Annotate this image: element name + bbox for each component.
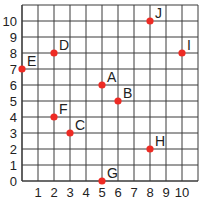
data-point-b: B — [114, 85, 132, 105]
x-tick-label: 9 — [162, 185, 169, 200]
y-tick-label: 3 — [10, 126, 17, 141]
x-tick-label: 8 — [146, 185, 153, 200]
point-label: F — [59, 101, 68, 117]
point-marker — [146, 17, 153, 24]
y-tick-label: 0 — [10, 174, 17, 189]
data-point-a: A — [98, 69, 117, 89]
data-point-e: E — [18, 53, 36, 73]
y-tick-label: 5 — [10, 94, 17, 109]
data-point-c: C — [66, 117, 85, 137]
point-label: J — [155, 5, 162, 21]
x-tick-label: 10 — [175, 185, 189, 200]
point-marker — [98, 177, 105, 184]
point-marker — [98, 81, 105, 88]
point-label: E — [27, 53, 36, 69]
y-tick-label: 4 — [10, 110, 17, 125]
data-point-h: H — [146, 133, 165, 153]
data-points: ABCDEFGHIJ — [18, 5, 190, 185]
x-tick-label: 4 — [82, 185, 89, 200]
y-tick-label: 10 — [3, 14, 17, 29]
x-tick-label: 3 — [66, 185, 73, 200]
data-point-d: D — [50, 37, 69, 57]
point-label: G — [107, 165, 118, 181]
point-label: D — [59, 37, 69, 53]
point-marker — [50, 49, 57, 56]
point-label: B — [123, 85, 132, 101]
grid-lines — [22, 5, 198, 181]
x-tick-label: 2 — [50, 185, 57, 200]
y-tick-label: 1 — [10, 158, 17, 173]
y-tick-label: 2 — [10, 142, 17, 157]
point-label: A — [107, 69, 117, 85]
point-label: I — [187, 37, 191, 53]
x-tick-label: 1 — [34, 185, 41, 200]
x-tick-label: 7 — [130, 185, 137, 200]
point-marker — [50, 113, 57, 120]
y-tick-label: 7 — [10, 62, 17, 77]
y-tick-label: 8 — [10, 46, 17, 61]
point-marker — [66, 129, 73, 136]
point-marker — [114, 97, 121, 104]
data-point-f: F — [50, 101, 67, 121]
point-marker — [178, 49, 185, 56]
point-marker — [146, 145, 153, 152]
y-tick-label: 6 — [10, 78, 17, 93]
x-tick-label: 6 — [114, 185, 121, 200]
x-axis-tick-labels: 12345678910 — [34, 185, 189, 200]
data-point-j: J — [146, 5, 162, 25]
y-axis-tick-labels: 012345678910 — [3, 14, 17, 189]
point-marker — [18, 65, 25, 72]
y-tick-label: 9 — [10, 30, 17, 45]
coordinate-grid-chart: 012345678910 12345678910 ABCDEFGHIJ — [0, 0, 200, 200]
point-label: C — [75, 117, 85, 133]
data-point-i: I — [178, 37, 190, 57]
point-label: H — [155, 133, 165, 149]
x-tick-label: 5 — [98, 185, 105, 200]
